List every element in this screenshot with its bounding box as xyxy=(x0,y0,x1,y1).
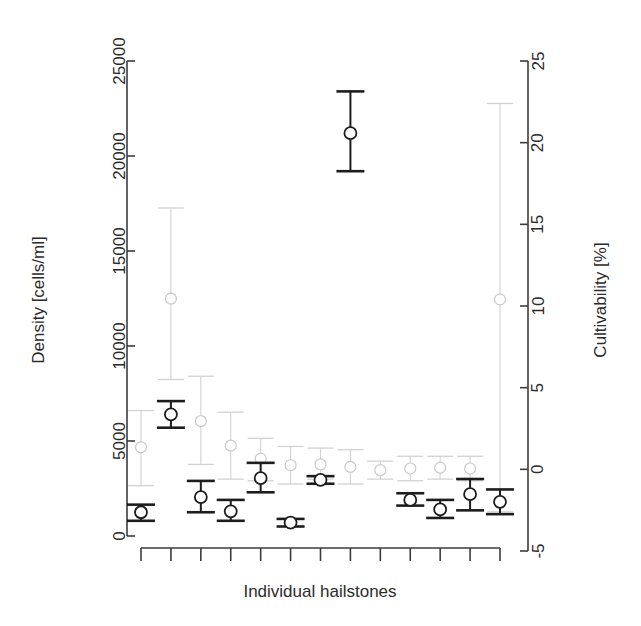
right-axis-ticks xyxy=(520,61,528,551)
right-tick-label: 25 xyxy=(529,52,548,71)
data-point-marker xyxy=(434,503,446,515)
data-point xyxy=(337,450,363,484)
data-point xyxy=(218,412,244,479)
x-axis-group: Individual hailstones xyxy=(141,548,500,601)
left-tick-label: 0 xyxy=(110,531,129,540)
data-point xyxy=(127,505,155,521)
data-point-marker xyxy=(315,459,326,470)
data-point xyxy=(396,493,424,506)
data-point xyxy=(427,456,453,479)
data-point-marker xyxy=(375,465,386,476)
data-point xyxy=(456,479,484,510)
data-point xyxy=(278,446,304,484)
data-point xyxy=(277,517,305,529)
right-tick-label: 5 xyxy=(529,383,548,392)
right-axis-tick-labels: -50510152025 xyxy=(529,52,548,559)
data-point-marker xyxy=(285,460,296,471)
left-axis-group: 0500010000150002000025000 Density [cells… xyxy=(29,37,135,540)
data-point-marker xyxy=(135,506,147,518)
data-point xyxy=(247,463,275,492)
data-point-marker xyxy=(495,294,506,305)
data-point-marker xyxy=(225,440,236,451)
data-point-marker xyxy=(165,293,176,304)
data-point-marker xyxy=(464,488,476,500)
data-point-marker xyxy=(285,517,297,529)
right-tick-label: 20 xyxy=(529,133,548,152)
data-point-marker xyxy=(494,496,506,508)
data-point xyxy=(457,456,483,481)
left-axis-ticks xyxy=(127,61,135,536)
data-point xyxy=(128,411,154,486)
data-point xyxy=(188,376,214,464)
data-point-marker xyxy=(136,442,147,453)
data-point-marker xyxy=(405,463,416,474)
right-axis-group: -50510152025 Cultivability [%] xyxy=(520,52,610,559)
data-point xyxy=(426,500,454,518)
data-point-marker xyxy=(465,463,476,474)
data-point-marker xyxy=(315,474,327,486)
right-tick-label: 15 xyxy=(529,215,548,234)
right-tick-label: 10 xyxy=(529,297,548,316)
left-tick-label: 25000 xyxy=(110,37,129,84)
data-point-marker xyxy=(195,491,207,503)
x-axis-title: Individual hailstones xyxy=(243,582,396,601)
data-point-marker xyxy=(165,408,177,420)
chart-figure: 0500010000150002000025000 Density [cells… xyxy=(0,0,641,626)
left-tick-label: 5000 xyxy=(110,422,129,460)
data-point xyxy=(486,489,514,514)
x-axis-ticks xyxy=(141,548,500,561)
data-point-marker xyxy=(404,494,416,506)
data-point xyxy=(307,474,335,486)
data-point xyxy=(336,91,364,171)
data-point xyxy=(487,103,513,511)
left-tick-label: 15000 xyxy=(110,227,129,274)
data-point xyxy=(217,500,245,521)
series-cultivability xyxy=(128,103,513,511)
data-point-marker xyxy=(255,472,267,484)
scatter-plot-canvas: 0500010000150002000025000 Density [cells… xyxy=(0,0,641,626)
data-point xyxy=(397,456,423,481)
right-tick-label: -5 xyxy=(529,543,548,558)
data-point-marker xyxy=(195,416,206,427)
right-axis-title: Cultivability [%] xyxy=(591,242,610,357)
left-axis-title: Density [cells/ml] xyxy=(29,236,48,364)
left-tick-label: 20000 xyxy=(110,132,129,179)
data-point-marker xyxy=(435,462,446,473)
data-point xyxy=(187,481,215,512)
data-point xyxy=(157,401,185,428)
data-point-marker xyxy=(344,127,356,139)
data-point-marker xyxy=(225,505,237,517)
right-tick-label: 0 xyxy=(529,465,548,474)
left-tick-label: 10000 xyxy=(110,322,129,369)
data-point xyxy=(158,208,184,380)
data-point-marker xyxy=(345,461,356,472)
data-point xyxy=(367,461,393,479)
left-axis-tick-labels: 0500010000150002000025000 xyxy=(110,37,129,540)
